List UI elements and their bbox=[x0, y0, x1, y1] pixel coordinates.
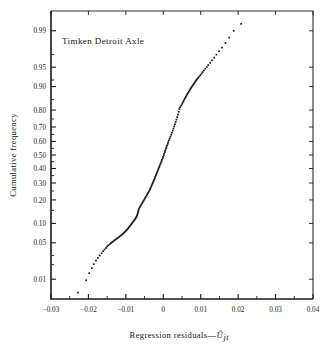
data-point bbox=[160, 162, 162, 164]
data-point bbox=[179, 108, 181, 110]
y-tick-label: 0.70 bbox=[33, 124, 46, 132]
data-point bbox=[77, 292, 79, 294]
y-axis-ticks bbox=[51, 31, 313, 279]
data-point bbox=[88, 272, 90, 274]
y-tick-label: 0.40 bbox=[33, 165, 46, 173]
x-tick-label: 0 bbox=[161, 306, 165, 314]
scatter-series-points bbox=[77, 23, 242, 293]
y-tick-label: 0.99 bbox=[33, 27, 46, 35]
data-point bbox=[104, 249, 106, 251]
data-point bbox=[165, 148, 167, 150]
data-point bbox=[176, 116, 178, 118]
data-point bbox=[175, 121, 177, 123]
x-tick-label: −0.02 bbox=[80, 306, 97, 314]
series-annotation-label: Timken Detroit Axle bbox=[62, 36, 144, 46]
data-point bbox=[178, 111, 180, 113]
data-point bbox=[167, 143, 169, 145]
data-point bbox=[181, 103, 183, 105]
data-point bbox=[206, 66, 208, 68]
y-tick-label: 0.50 bbox=[33, 152, 46, 160]
data-point bbox=[213, 57, 215, 59]
y-tick-label: 0.80 bbox=[33, 107, 46, 115]
data-point bbox=[209, 62, 211, 64]
data-point bbox=[85, 279, 87, 281]
y-tick-label: 0.30 bbox=[33, 180, 46, 188]
x-axis-title-subscript: jt bbox=[222, 332, 229, 342]
y-tick-label: 0.60 bbox=[33, 138, 46, 146]
x-axis-title: Regression residuals—Ûjt bbox=[130, 330, 230, 342]
data-point bbox=[225, 42, 227, 44]
data-point bbox=[202, 71, 204, 73]
y-tick-label: 0.10 bbox=[33, 220, 46, 228]
data-point bbox=[176, 119, 178, 121]
plot-frame-top-right bbox=[51, 11, 313, 299]
data-point bbox=[164, 150, 166, 152]
data-point bbox=[172, 130, 174, 132]
data-point bbox=[102, 250, 104, 252]
data-point bbox=[233, 30, 235, 32]
y-axis-title: Cumulative frequency bbox=[8, 113, 18, 197]
data-point bbox=[101, 252, 103, 254]
data-point bbox=[207, 64, 209, 66]
plot-frame bbox=[51, 11, 313, 299]
x-axis-ticks bbox=[51, 11, 313, 299]
data-point bbox=[170, 136, 172, 138]
data-point bbox=[97, 257, 99, 259]
data-point bbox=[174, 123, 176, 125]
data-point bbox=[162, 156, 164, 158]
data-point bbox=[161, 161, 163, 163]
y-tick-label: 0.90 bbox=[33, 83, 46, 91]
data-point bbox=[177, 114, 179, 116]
data-point bbox=[201, 73, 203, 75]
data-point bbox=[159, 163, 161, 165]
y-axis-title-text: Cumulative frequency bbox=[8, 113, 18, 197]
y-tick-label: 0.01 bbox=[33, 276, 46, 284]
x-tick-label: 0.02 bbox=[232, 306, 245, 314]
data-point bbox=[105, 247, 107, 249]
x-tick-label: 0.04 bbox=[307, 306, 320, 314]
data-point bbox=[211, 59, 213, 61]
data-point bbox=[165, 146, 167, 148]
x-axis-title-symbol: Û bbox=[216, 330, 223, 340]
data-point bbox=[173, 128, 175, 130]
data-point bbox=[95, 260, 97, 262]
data-point bbox=[216, 54, 218, 56]
y-tick-label: 0.20 bbox=[33, 197, 46, 205]
data-point bbox=[228, 37, 230, 39]
data-point bbox=[91, 267, 93, 269]
data-point bbox=[168, 139, 170, 141]
data-point bbox=[200, 74, 202, 76]
data-point bbox=[179, 106, 181, 108]
data-point bbox=[164, 151, 166, 153]
data-point bbox=[240, 23, 242, 25]
data-point bbox=[93, 263, 95, 265]
data-point bbox=[182, 102, 184, 104]
data-point bbox=[163, 154, 165, 156]
data-point bbox=[169, 138, 171, 140]
data-point bbox=[218, 50, 220, 52]
chart-canvas: −0.03−0.02−0.0100.010.020.030.04 0.010.0… bbox=[0, 0, 335, 351]
data-point bbox=[170, 134, 172, 136]
x-tick-label: 0.03 bbox=[269, 306, 282, 314]
x-tick-label: 0.01 bbox=[194, 306, 207, 314]
normal-probability-plot-figure: −0.03−0.02−0.0100.010.020.030.04 0.010.0… bbox=[0, 0, 335, 351]
plot-frame-left-bottom bbox=[51, 11, 313, 299]
x-axis-title-text: Regression residuals— bbox=[130, 330, 217, 340]
data-point bbox=[173, 126, 175, 128]
data-point bbox=[171, 132, 173, 134]
x-tick-label: −0.03 bbox=[43, 306, 60, 314]
x-tick-label: −0.01 bbox=[118, 306, 135, 314]
data-point bbox=[107, 244, 109, 246]
data-point bbox=[167, 141, 169, 143]
data-point bbox=[99, 255, 101, 257]
data-point bbox=[162, 157, 164, 159]
data-point bbox=[159, 165, 161, 167]
data-point bbox=[204, 68, 206, 70]
data-point bbox=[203, 70, 205, 72]
y-tick-label: 0.95 bbox=[33, 64, 46, 72]
data-point bbox=[221, 47, 223, 49]
data-point bbox=[166, 145, 168, 147]
x-axis-tick-labels: −0.03−0.02−0.0100.010.020.030.04 bbox=[43, 306, 320, 314]
y-tick-label: 0.05 bbox=[33, 239, 46, 247]
y-axis-tick-labels: 0.010.050.100.200.300.400.500.600.700.80… bbox=[33, 27, 46, 283]
